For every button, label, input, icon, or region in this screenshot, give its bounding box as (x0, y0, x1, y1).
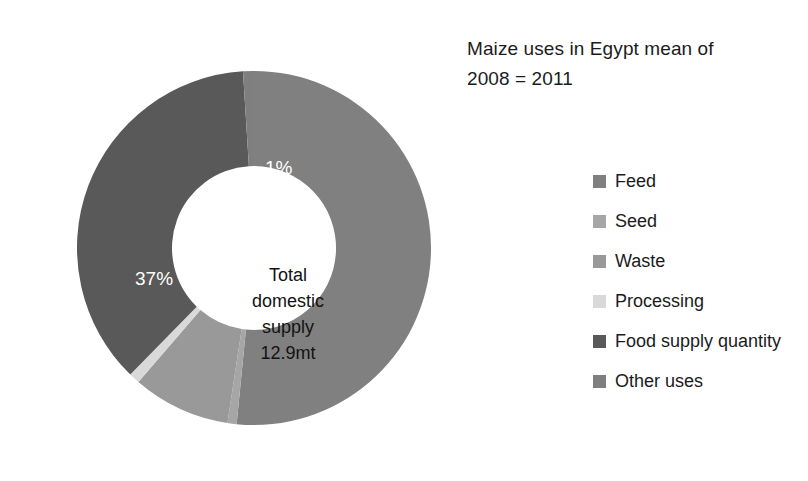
legend-color-swatch-icon (593, 215, 606, 228)
legend-item-label: Food supply quantity (615, 331, 781, 351)
legend-item-label: Processing (615, 291, 704, 311)
legend-item[interactable]: Food supply quantity (593, 321, 808, 361)
legend-item[interactable]: Seed (593, 201, 808, 241)
legend-item[interactable]: Processing (593, 281, 808, 321)
legend-color-swatch-icon (593, 375, 606, 388)
legend-item-label: Other uses (615, 371, 703, 391)
legend-color-swatch-icon (593, 335, 606, 348)
legend-color-swatch-icon (593, 255, 606, 268)
donut-slice-group (77, 71, 431, 425)
donut-chart-figure: Maize uses in Egypt mean of 2008 = 2011 … (40, 16, 808, 481)
donut-slice-feed[interactable] (237, 71, 431, 425)
legend-item[interactable]: Feed (593, 161, 808, 201)
legend-color-swatch-icon (593, 295, 606, 308)
slice-label-waste: 9% (233, 456, 260, 475)
chart-title: Maize uses in Egypt mean of 2008 = 2011 (467, 34, 808, 94)
legend-item[interactable]: Other uses (593, 361, 808, 401)
donut-chart-plot-area: Total domestic supply 12.9mt 1% 52% 0% 9… (73, 66, 437, 434)
legend-item-label: Seed (615, 211, 657, 231)
chart-legend: FeedSeedWasteProcessingFood supply quant… (593, 161, 808, 401)
legend-color-swatch-icon (593, 175, 606, 188)
legend-item-label: Feed (615, 171, 656, 191)
slice-label-seed: 0% (290, 468, 317, 481)
legend-item-label: Waste (615, 251, 665, 271)
donut-svg (73, 66, 437, 434)
legend-item[interactable]: Waste (593, 241, 808, 281)
